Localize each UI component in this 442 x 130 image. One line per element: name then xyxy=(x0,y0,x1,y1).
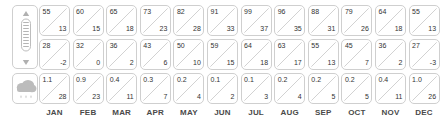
value-primary: 28 xyxy=(43,42,51,50)
cell-precipitation-mar[interactable]: 0.411 xyxy=(106,73,137,104)
cell-high-temperature-sep[interactable]: 8831 xyxy=(308,5,339,36)
cell-high-temperature-may[interactable]: 8228 xyxy=(173,5,204,36)
cell-precipitation-nov[interactable]: 0.411 xyxy=(375,73,406,104)
value-primary: 55 xyxy=(412,8,420,16)
cell-low-temperature-oct[interactable]: 457 xyxy=(341,39,372,70)
month-label-jun[interactable]: JUN xyxy=(207,107,238,119)
cell-low-temperature-mar[interactable]: 362 xyxy=(106,39,137,70)
cell-precipitation-apr[interactable]: 0.37 xyxy=(140,73,171,104)
value-primary: 0.2 xyxy=(311,76,321,84)
cell-low-temperature-nov[interactable]: 362 xyxy=(375,39,406,70)
value-primary: 0.2 xyxy=(278,76,288,84)
row-precipitation: 1.1280.9230.4110.370.240.120.130.240.250… xyxy=(39,73,442,104)
month-label-jul[interactable]: JUL xyxy=(241,107,272,119)
value-primary: 63 xyxy=(278,42,286,50)
value-primary: 59 xyxy=(211,42,219,50)
month-label-nov[interactable]: NOV xyxy=(375,107,406,119)
cell-high-temperature-jan[interactable]: 5513 xyxy=(39,5,70,36)
value-primary: 0.4 xyxy=(379,76,389,84)
month-label-may[interactable]: MAY xyxy=(173,107,204,119)
value-primary: 0.1 xyxy=(211,76,221,84)
value-primary: 32 xyxy=(76,42,84,50)
value-secondary: 28 xyxy=(193,25,201,33)
value-secondary: 23 xyxy=(160,25,168,33)
cell-high-temperature-jul[interactable]: 9937 xyxy=(241,5,272,36)
value-secondary: 26 xyxy=(361,25,369,33)
month-label-dec[interactable]: DEC xyxy=(409,107,440,119)
row-icon-column xyxy=(12,0,38,130)
cell-high-temperature-feb[interactable]: 6015 xyxy=(73,5,104,36)
cell-low-temperature-jul[interactable]: 6418 xyxy=(241,39,272,70)
cell-precipitation-may[interactable]: 0.24 xyxy=(173,73,204,104)
rain-cloud-icon-cell xyxy=(12,73,38,104)
month-label-sep[interactable]: SEP xyxy=(308,107,339,119)
value-primary: 0.1 xyxy=(244,76,254,84)
value-primary: 43 xyxy=(143,42,151,50)
cell-precipitation-jul[interactable]: 0.13 xyxy=(241,73,272,104)
cell-high-temperature-apr[interactable]: 7323 xyxy=(140,5,171,36)
value-primary: 45 xyxy=(345,42,353,50)
value-secondary: 17 xyxy=(294,59,302,67)
cell-precipitation-dec[interactable]: 1.026 xyxy=(409,73,440,104)
cell-low-temperature-aug[interactable]: 6317 xyxy=(274,39,305,70)
cell-precipitation-sep[interactable]: 0.25 xyxy=(308,73,339,104)
value-secondary: 4 xyxy=(298,93,302,101)
month-label-row: JANFEBMARAPRMAYJUNJULAUGSEPOCTNOVDEC xyxy=(39,107,442,123)
month-label-oct[interactable]: OCT xyxy=(341,107,372,119)
cell-low-temperature-sep[interactable]: 5513 xyxy=(308,39,339,70)
value-secondary: 15 xyxy=(92,25,100,33)
value-secondary: 18 xyxy=(126,25,134,33)
value-primary: 64 xyxy=(244,42,252,50)
value-secondary: 10 xyxy=(193,59,201,67)
value-primary: 50 xyxy=(177,42,185,50)
cell-high-temperature-jun[interactable]: 9133 xyxy=(207,5,238,36)
row-high-temperature: 5513601565187323822891339937963588317926… xyxy=(39,5,442,36)
month-label-aug[interactable]: AUG xyxy=(274,107,305,119)
value-primary: 55 xyxy=(311,42,319,50)
value-primary: 79 xyxy=(345,8,353,16)
cell-high-temperature-dec[interactable]: 5513 xyxy=(409,5,440,36)
value-secondary: 33 xyxy=(227,25,235,33)
value-secondary: 11 xyxy=(126,93,133,101)
value-secondary: 37 xyxy=(260,25,268,33)
value-primary: 36 xyxy=(379,42,387,50)
value-secondary: 26 xyxy=(428,93,436,101)
cell-low-temperature-feb[interactable]: 320 xyxy=(73,39,104,70)
value-secondary: 5 xyxy=(331,93,335,101)
cell-low-temperature-jan[interactable]: 28-2 xyxy=(39,39,70,70)
value-secondary: 2 xyxy=(130,59,134,67)
value-secondary: 18 xyxy=(395,25,403,33)
cell-low-temperature-dec[interactable]: 27-3 xyxy=(409,39,440,70)
month-label-apr[interactable]: APR xyxy=(140,107,171,119)
value-primary: 91 xyxy=(211,8,219,16)
month-label-jan[interactable]: JAN xyxy=(39,107,70,119)
cell-precipitation-jun[interactable]: 0.12 xyxy=(207,73,238,104)
value-primary: 96 xyxy=(278,8,286,16)
cell-precipitation-aug[interactable]: 0.24 xyxy=(274,73,305,104)
cell-high-temperature-aug[interactable]: 9635 xyxy=(274,5,305,36)
cell-high-temperature-oct[interactable]: 7926 xyxy=(341,5,372,36)
value-secondary: 23 xyxy=(92,93,100,101)
value-secondary: 2 xyxy=(399,59,403,67)
value-secondary: 28 xyxy=(59,93,67,101)
cell-high-temperature-mar[interactable]: 6518 xyxy=(106,5,137,36)
cell-high-temperature-nov[interactable]: 6418 xyxy=(375,5,406,36)
value-primary: 60 xyxy=(76,8,84,16)
value-primary: 73 xyxy=(143,8,151,16)
cell-precipitation-feb[interactable]: 0.923 xyxy=(73,73,104,104)
value-primary: 0.9 xyxy=(76,76,86,84)
cell-low-temperature-apr[interactable]: 436 xyxy=(140,39,171,70)
value-primary: 55 xyxy=(43,8,51,16)
cell-precipitation-oct[interactable]: 0.25 xyxy=(341,73,372,104)
value-secondary: 35 xyxy=(294,25,302,33)
cell-precipitation-jan[interactable]: 1.128 xyxy=(39,73,70,104)
cell-low-temperature-jun[interactable]: 5915 xyxy=(207,39,238,70)
value-secondary: 11 xyxy=(395,93,402,101)
cell-low-temperature-may[interactable]: 5010 xyxy=(173,39,204,70)
value-primary: 1.1 xyxy=(43,76,53,84)
value-primary: 64 xyxy=(379,8,387,16)
month-label-mar[interactable]: MAR xyxy=(106,107,137,119)
month-label-feb[interactable]: FEB xyxy=(73,107,104,119)
value-primary: 88 xyxy=(311,8,319,16)
value-primary: 0.2 xyxy=(345,76,355,84)
